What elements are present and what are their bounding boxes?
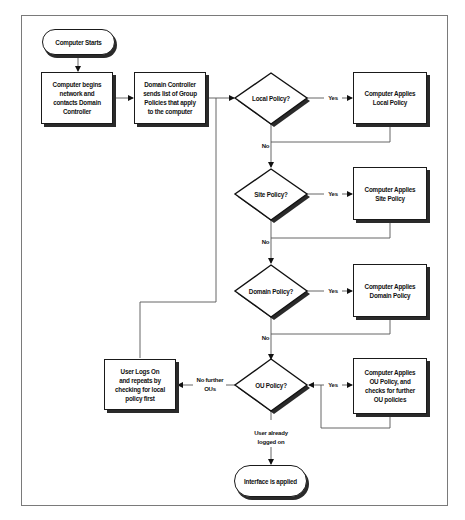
start-terminator: Computer Starts [42, 29, 115, 55]
no-label-site: No [261, 238, 270, 247]
user-logged-on-label: User already logged on [250, 429, 292, 447]
label-line: No further [194, 376, 226, 385]
label-line: OUs [194, 385, 226, 394]
box-text-line: OU Policy, and [365, 377, 416, 386]
box-text-line: Computer Applies [365, 185, 416, 194]
box-text-line: Computer Applies [365, 89, 416, 98]
no-label-domain: No [261, 334, 270, 343]
box-text-line: Policies that apply [143, 98, 197, 107]
box-text-line: checking for local [115, 385, 165, 394]
box-text-line: Computer begins [53, 80, 102, 89]
label-line: User already [250, 429, 292, 438]
box-text-line: network and [53, 89, 102, 98]
box-text-line: Site Policy [365, 194, 416, 203]
domain-policy-label: Domain Policy? [235, 287, 307, 296]
label-line: logged on [250, 438, 292, 447]
yes-label-domain: Yes [325, 287, 341, 296]
box-text-line: Computer Applies [365, 282, 416, 291]
domain-apply-box: Computer Applies Domain Policy [353, 264, 427, 317]
yes-label-site: Yes [325, 190, 341, 199]
no-further-ous-label: No further OUs [194, 376, 226, 394]
box-text-line: contacts Domain [53, 98, 102, 107]
no-label-local: No [261, 142, 270, 151]
box-text-line: Local Policy [365, 98, 416, 107]
box-text-line: User Logs On [115, 367, 165, 376]
box-text-line: OU policies [365, 395, 416, 404]
end-terminator: Interface is applied [234, 465, 307, 497]
local-apply-box: Computer Applies Local Policy [353, 72, 427, 124]
box-text-line: Computer Applies [365, 368, 416, 377]
local-policy-label: Local Policy? [235, 94, 307, 103]
box-text-line: to the computer [143, 107, 197, 116]
box-text-line: Domain Controller [143, 80, 197, 89]
box-text-line: sends list of Group [143, 89, 197, 98]
box-text-line: Controller [53, 107, 102, 116]
site-apply-box: Computer Applies Site Policy [353, 167, 427, 220]
yes-label-ou: Yes [325, 381, 341, 390]
begin-network-box: Computer begins network and contacts Dom… [41, 72, 113, 124]
user-logs-on-box: User Logs On and repeats by checking for… [104, 359, 176, 410]
start-label: Computer Starts [55, 39, 101, 46]
ou-apply-box: Computer Applies OU Policy, and checks f… [353, 358, 427, 414]
box-text-line: Domain Policy [365, 291, 416, 300]
box-text-line: policy first [115, 394, 165, 403]
box-text-line: and repeats by [115, 376, 165, 385]
dc-sends-box: Domain Controller sends list of Group Po… [134, 72, 206, 124]
ou-policy-label: OU Policy? [235, 381, 307, 390]
yes-label-local: Yes [325, 94, 341, 103]
box-text-line: checks for further [365, 386, 416, 395]
site-policy-label: Site Policy? [235, 190, 307, 199]
end-label: Interface is applied [244, 478, 297, 485]
